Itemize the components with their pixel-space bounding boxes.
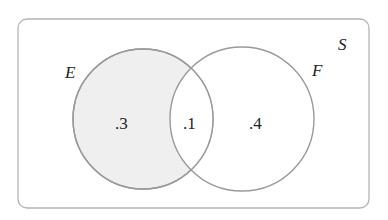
venn-diagram: [0, 0, 388, 220]
set-f-label: F: [312, 62, 322, 79]
sample-space-label: S: [338, 36, 347, 53]
region-f-only-value: .4: [249, 115, 262, 132]
set-e-label: E: [65, 64, 75, 81]
region-intersection-value: .1: [183, 115, 196, 132]
region-e-only-value: .3: [115, 115, 128, 132]
